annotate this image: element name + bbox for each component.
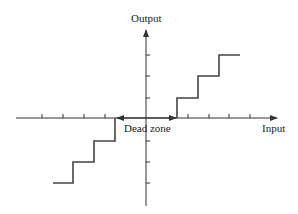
negative-staircase	[53, 118, 115, 183]
positive-staircase	[177, 55, 240, 118]
quantizer-diagram	[0, 0, 298, 214]
x-axis-label: Input	[262, 122, 285, 134]
y-axis-label: Output	[131, 12, 162, 24]
y-ticks	[146, 55, 150, 183]
dead-zone-label: Dead zone	[124, 122, 171, 134]
